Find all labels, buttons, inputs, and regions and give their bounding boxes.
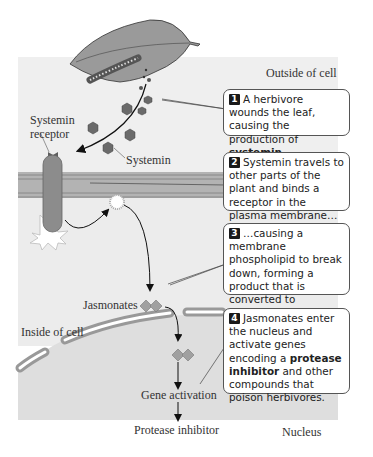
step-3-callout: 3…causing a membrane phospholipid to bre… (223, 223, 350, 295)
step-2-number-badge: 2 (229, 157, 240, 168)
step-1-number-badge: 1 (229, 94, 240, 105)
systemin-signaling-diagram: Outside of cell Systemin receptor System… (0, 0, 373, 457)
phospholipid-burst (110, 195, 124, 209)
step-1-callout: 1A herbivore wounds the leaf, causing th… (223, 89, 350, 136)
jasmonates-label: Jasmonates (83, 298, 138, 313)
nucleus-label: Nucleus (282, 425, 321, 440)
inside-of-cell-label: Inside of cell (21, 325, 84, 340)
step-3-text: …causing a membrane phospholipid to brea… (229, 227, 342, 305)
systemin-receptor-label: Systemin receptor (30, 113, 75, 141)
protease-inhibitor-label: Protease inhibitor (134, 423, 219, 438)
outside-of-cell-label: Outside of cell (266, 66, 337, 81)
step-4-callout: 4Jasmonates enter the nucleus and activa… (223, 308, 350, 394)
step-2-callout: 2Systemin travels to other parts of the … (223, 152, 350, 211)
systemin-receptor-label-line2: receptor (30, 127, 75, 141)
gene-activation-label: Gene activation (141, 388, 217, 403)
step-2-text: Systemin travels to other parts of the p… (229, 156, 344, 221)
systemin-label: Systemin (126, 153, 171, 168)
step-4-number-badge: 4 (229, 313, 240, 324)
systemin-receptor-label-line1: Systemin (30, 113, 75, 127)
step-3-number-badge: 3 (229, 228, 240, 239)
